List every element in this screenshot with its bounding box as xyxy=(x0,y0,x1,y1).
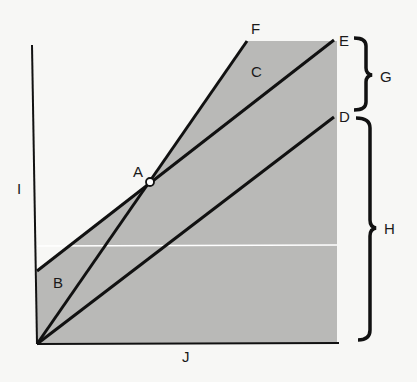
label-E: E xyxy=(339,32,349,49)
x-axis-J xyxy=(37,343,339,344)
label-B: B xyxy=(53,274,63,291)
brace-G xyxy=(354,38,372,110)
label-I: I xyxy=(17,180,21,197)
label-A: A xyxy=(133,163,143,180)
label-D: D xyxy=(339,108,350,125)
label-J: J xyxy=(182,348,190,365)
white-rule xyxy=(37,245,337,246)
label-C: C xyxy=(251,63,262,80)
shaded-region xyxy=(37,41,337,344)
diagram-canvas: A B C D E F G H I J xyxy=(0,0,417,382)
label-F: F xyxy=(251,20,260,37)
y-axis-I xyxy=(32,45,37,344)
label-H: H xyxy=(384,220,395,237)
label-G: G xyxy=(380,68,392,85)
point-A-marker xyxy=(146,178,154,186)
brace-H xyxy=(356,118,376,340)
